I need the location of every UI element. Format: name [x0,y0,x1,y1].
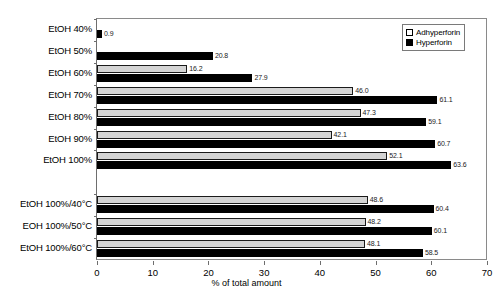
bar-adhyperforin [97,196,368,204]
legend-label: Adhyperforin [416,28,460,37]
bar-hyperforin [97,118,426,126]
y-axis-tick [94,19,97,20]
x-axis-tick-label: 20 [203,267,214,278]
x-axis-tick [487,261,488,265]
bar-hyperforin [97,205,434,213]
bar-adhyperforin [97,65,187,73]
category-axis-labels: EtOH 40%EtOH 50%EtOH 60%EtOH 70%EtOH 80%… [0,18,92,260]
bar-adhyperforin [97,87,353,95]
bar-value-label: 47.3 [363,109,376,117]
bar-hyperforin [97,74,252,82]
category-label: EtOH 70% [0,90,92,100]
x-axis-title: % of total amount [0,278,493,289]
x-axis-tick [376,261,377,265]
bar-value-label: 61.1 [439,96,452,104]
y-axis-tick [94,238,97,239]
category-label: EtOH 40% [0,24,92,34]
category-label: EtOH 60% [0,68,92,78]
bar-value-label: 48.1 [367,240,380,248]
bar-chart: EtOH 40%EtOH 50%EtOH 60%EtOH 70%EtOH 80%… [0,0,493,297]
bar-value-label: 60.1 [434,227,447,235]
bar-hyperforin [97,30,102,38]
bar-hyperforin [97,227,432,235]
bar-hyperforin [97,52,213,60]
bar-value-label: 58.5 [425,249,438,257]
category-label: EtOH 50% [0,46,92,56]
bar-value-label: 27.9 [254,74,267,82]
bar-hyperforin [97,161,451,169]
y-axis-tick [94,150,97,151]
legend: AdhyperforinHyperforin [402,24,465,51]
x-axis-tick-label: 70 [482,267,493,278]
y-axis-tick [94,85,97,86]
bar-value-label: 48.6 [370,196,383,204]
x-axis-tick-label: 10 [147,267,158,278]
y-axis-tick [94,107,97,108]
x-axis-tick-label: 50 [370,267,381,278]
legend-label: Hyperforin [416,38,452,47]
bar-value-label: 16.2 [189,65,202,73]
x-axis-tick [320,261,321,265]
x-axis-tick-label: 40 [315,267,326,278]
bar-value-label: 20.8 [215,52,228,60]
bar-value-label: 59.1 [428,118,441,126]
bar-adhyperforin [97,131,332,139]
bar-value-label: 46.0 [355,87,368,95]
bar-value-label: 60.4 [436,205,449,213]
category-label: EOH 100%/50°C [0,221,92,231]
plot-area: 0.920.816.227.946.061.147.359.142.160.75… [96,18,487,260]
y-axis-tick [94,41,97,42]
x-axis-tick-label: 30 [259,267,270,278]
legend-item: Adhyperforin [406,27,460,37]
x-axis-tick [431,261,432,265]
bar-value-label: 0.9 [104,30,113,38]
bar-value-label: 48.2 [368,218,381,226]
bar-value-label: 42.1 [334,131,347,139]
x-axis-tick-label: 60 [426,267,437,278]
bar-value-label: 60.7 [437,140,450,148]
category-label: EtOH 100%/40°C [0,199,92,209]
y-axis-tick [94,129,97,130]
bar-hyperforin [97,140,435,148]
category-label: EtOH 80% [0,112,92,122]
y-axis-tick [94,194,97,195]
category-label: EtOH 90% [0,134,92,144]
y-axis-tick [94,63,97,64]
bar-adhyperforin [97,152,387,160]
category-label: EtOH 100%/60°C [0,243,92,253]
x-axis-tick [264,261,265,265]
bar-hyperforin [97,249,423,257]
bar-value-label: 63.6 [453,161,466,169]
bar-adhyperforin [97,109,361,117]
y-axis-tick [94,216,97,217]
bar-adhyperforin [97,240,365,248]
category-label: EtOH 100% [0,155,92,165]
legend-item: Hyperforin [406,37,460,47]
bar-adhyperforin [97,218,366,226]
legend-swatch-icon [406,29,413,36]
x-axis-tick [153,261,154,265]
bar-hyperforin [97,96,437,104]
x-axis-tick-label: 0 [94,267,99,278]
legend-swatch-icon [406,39,413,46]
bar-value-label: 52.1 [389,152,402,160]
x-axis-tick [208,261,209,265]
x-axis-tick [97,261,98,265]
